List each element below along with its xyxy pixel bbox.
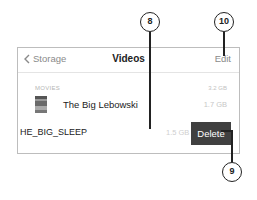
callout-8-line: [149, 32, 151, 129]
movie-size: 1.5 GB: [166, 128, 189, 137]
movie-title: HE_BIG_SLEEP: [20, 127, 87, 137]
section-header: MOVIES: [35, 85, 60, 91]
callout-9: 9: [222, 162, 242, 182]
movie-size: 1.7 GB: [204, 100, 227, 109]
callout-9-line-v: [231, 130, 233, 162]
movie-poster-thumbnail: [35, 96, 47, 113]
delete-button[interactable]: Delete: [191, 122, 231, 145]
videos-screen: Storage Videos Edit MOVIES 3.2 GB The Bi…: [17, 47, 240, 154]
page-title: Videos: [18, 53, 239, 64]
navigation-bar: Storage Videos Edit: [18, 48, 239, 73]
callout-8: 8: [140, 12, 160, 32]
callout-10-line: [223, 32, 225, 56]
callout-10: 10: [214, 12, 234, 32]
list-item-swiped[interactable]: HE_BIG_SLEEP 1.5 GB Delete: [18, 122, 239, 144]
movie-title: The Big Lebowski: [63, 99, 138, 110]
list-item[interactable]: The Big Lebowski 1.7 GB: [18, 95, 239, 119]
section-size: 3.2 GB: [208, 85, 227, 91]
